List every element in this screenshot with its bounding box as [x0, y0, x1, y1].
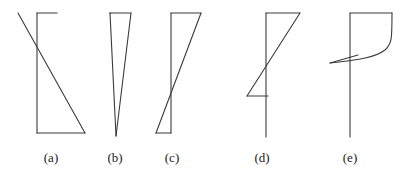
diagram-c — [156, 13, 201, 133]
diagram-e — [330, 13, 392, 137]
diagram-label-c: (c) — [165, 150, 179, 166]
diagram-d-segment-3 — [247, 13, 300, 96]
diagram-d — [247, 13, 300, 137]
diagram-label-e: (e) — [343, 150, 357, 166]
diagram-label-a: (a) — [44, 150, 58, 166]
diagram-label-d: (d) — [254, 150, 269, 166]
diagram-b-segment-4 — [116, 13, 131, 136]
diagram-b-segment-3 — [110, 13, 116, 136]
diagram-canvas — [0, 0, 412, 174]
diagram-a — [18, 13, 85, 133]
diagram-e-segment-3 — [330, 13, 392, 63]
diagram-c-segment-3 — [156, 13, 201, 133]
figure-container: (a) (b) (c) (d) (e) — [0, 0, 412, 174]
diagram-b — [110, 13, 131, 136]
diagram-a-segment-3 — [18, 13, 85, 133]
diagram-label-b: (b) — [107, 150, 122, 166]
